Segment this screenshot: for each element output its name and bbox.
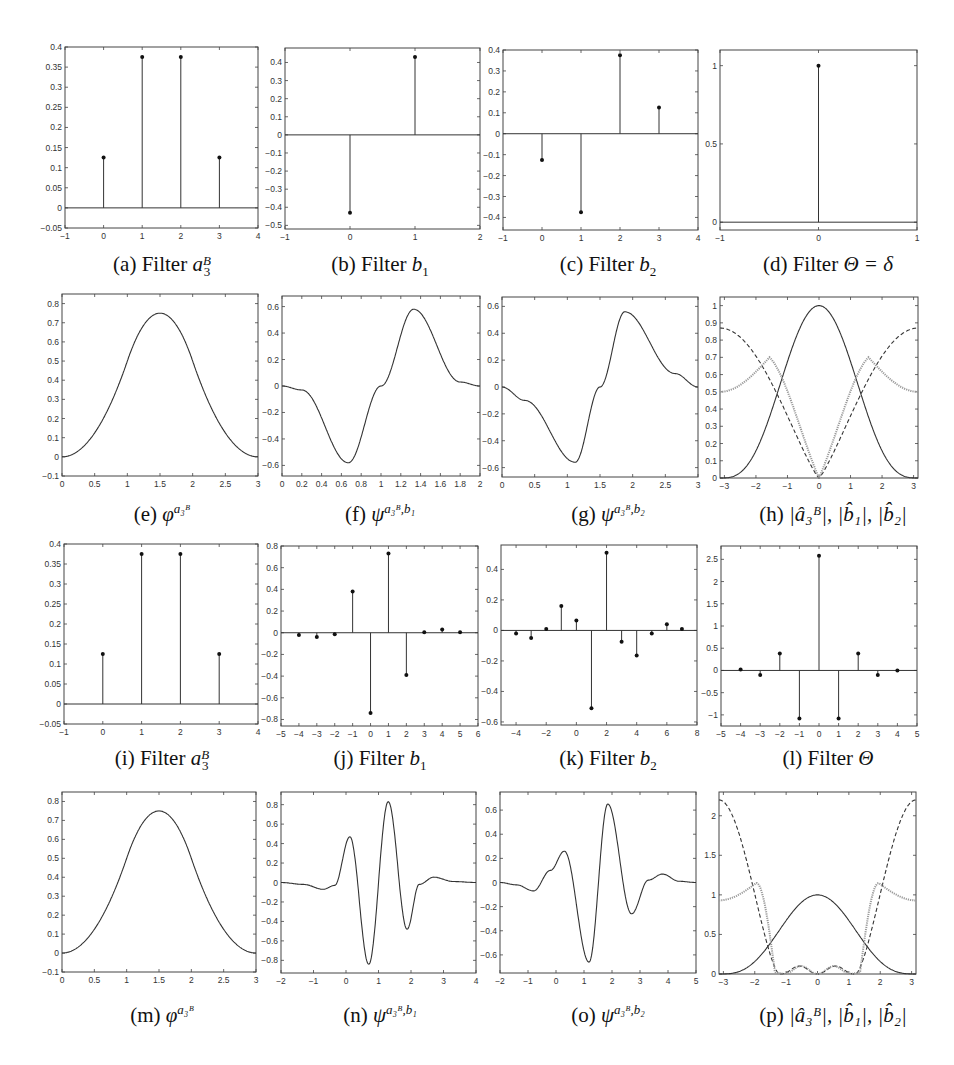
x-tick-label: −1	[781, 977, 791, 987]
caption-label: (p)	[759, 1003, 789, 1027]
y-tick-label: 2	[711, 811, 716, 821]
plot-p: −3−2−1012300.511.52	[0, 0, 954, 1065]
x-tick-label: 3	[909, 977, 914, 987]
caption-p: (p) |â₃ᴮ|, |b̂₁|, |b̂₂|	[718, 1003, 948, 1028]
y-tick-label: 0.5	[704, 929, 716, 939]
x-tick-label: −3	[719, 977, 729, 987]
y-tick-label: 1	[711, 890, 716, 900]
y-tick-label: 0	[711, 969, 716, 979]
y-tick-label: 1.5	[704, 850, 716, 860]
caption-math: |â₃ᴮ|, |b̂₁|, |b̂₂|	[789, 1003, 907, 1027]
x-tick-label: 0	[815, 977, 820, 987]
plot-frame	[719, 792, 916, 974]
x-tick-label: 2	[878, 977, 883, 987]
x-tick-label: 1	[847, 977, 852, 987]
x-tick-label: −2	[750, 977, 760, 987]
